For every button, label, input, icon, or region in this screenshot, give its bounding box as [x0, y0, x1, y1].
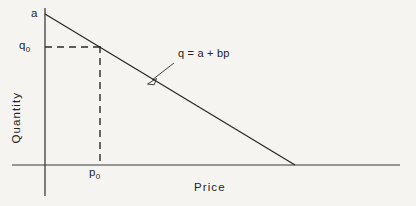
q0-label-subscript: 0	[26, 45, 30, 54]
p0-label: p0	[89, 167, 100, 181]
chart-canvas	[0, 0, 416, 206]
y-axis-title: Quantity	[11, 82, 23, 154]
p0-label-base: p	[89, 166, 96, 178]
x-axis-title: Price	[194, 182, 226, 194]
equation-leader-line	[152, 63, 174, 80]
equation-annotation-label: q = a + bp	[178, 48, 230, 59]
q0-label-base: q	[19, 39, 26, 51]
demand-line	[45, 14, 295, 165]
demand-curve-figure: a q0 p0 q = a + bp Price Quantity	[0, 0, 416, 206]
q0-label: q0	[19, 40, 30, 54]
p0-label-subscript: 0	[96, 172, 100, 181]
y-intercept-label: a	[31, 8, 38, 20]
